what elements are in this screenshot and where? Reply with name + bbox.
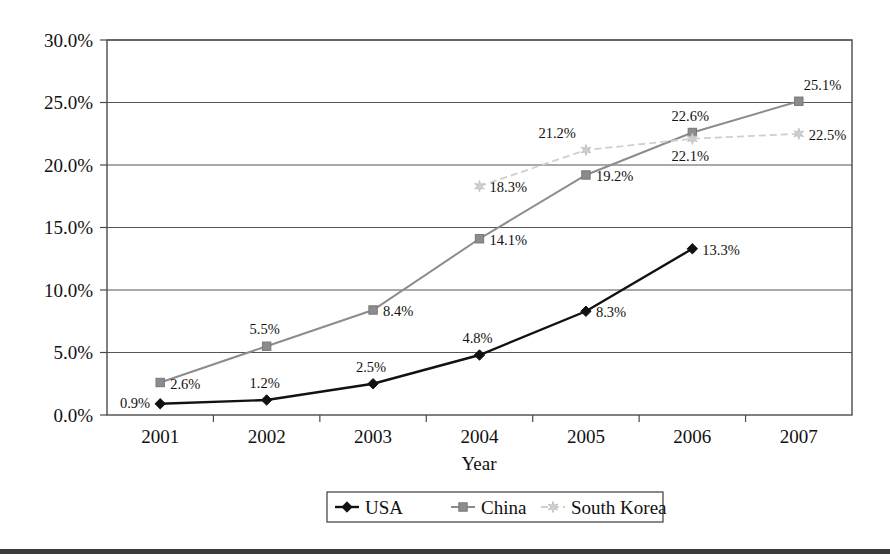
data-label-korea-2007: 22.5% [809,127,846,143]
gridlines-group [107,40,852,353]
y-tick-label: 5.0% [53,342,93,363]
y-tick-label: 10.0% [44,280,93,301]
x-tick-labels-group: 2001200220032004200520062007 [141,426,818,447]
data-point-china-2001 [156,378,164,386]
data-point-china-2004 [475,235,483,243]
legend-marker-china [459,503,467,511]
data-point-china-2007 [795,97,803,105]
data-label-china-2004: 14.1% [490,232,527,248]
x-tick-label-2001: 2001 [141,426,179,447]
data-point-korea-2004 [475,181,485,192]
legend-label-usa: USA [365,497,403,518]
y-tick-labels-group: 0.0%5.0%10.0%15.0%20.0%25.0%30.0% [44,30,93,426]
data-label-china-2005: 19.2% [596,168,633,184]
data-labels-group: 0.9%1.2%2.5%4.8%8.3%13.3%2.6%5.5%8.4%14.… [120,77,846,411]
series-line-korea [480,134,799,187]
x-tick-label-2003: 2003 [354,426,392,447]
data-label-usa-2003: 2.5% [356,359,386,375]
data-point-usa-2001 [155,399,165,409]
data-point-china-2002 [262,342,270,350]
footer-rule [0,549,890,554]
data-point-china-2005 [582,171,590,179]
data-label-usa-2005: 8.3% [596,304,626,320]
data-label-china-2007: 25.1% [804,77,841,93]
x-tick-label-2005: 2005 [567,426,605,447]
data-point-usa-2002 [261,395,271,405]
data-label-korea-2006: 22.1% [672,148,709,164]
chart-legend: USAChinaSouth Korea [327,492,667,522]
series-line-usa [160,249,692,404]
data-label-china-2003: 8.4% [383,303,413,319]
data-label-korea-2004: 18.3% [490,179,527,195]
y-tick-label: 15.0% [44,217,93,238]
data-point-usa-2003 [368,379,378,389]
data-point-usa-2006 [687,244,697,254]
y-tick-label: 30.0% [44,30,93,51]
data-point-usa-2005 [581,306,591,316]
y-tick-label: 25.0% [44,92,93,113]
line-chart: 0.0%5.0%10.0%15.0%20.0%25.0%30.0% 200120… [0,0,890,559]
y-tick-label: 0.0% [53,405,93,426]
y-tick-label: 20.0% [44,155,93,176]
data-label-korea-2005: 21.2% [538,125,575,141]
x-axis-title: Year [461,453,497,474]
x-tick-label-2007: 2007 [780,426,818,447]
legend-label-china: China [481,497,527,518]
data-label-usa-2006: 13.3% [702,242,739,258]
x-tick-label-2002: 2002 [248,426,286,447]
chart-figure: 0.0%5.0%10.0%15.0%20.0%25.0%30.0% 200120… [0,0,890,559]
data-label-china-2006: 22.6% [672,108,709,124]
data-label-china-2001: 2.6% [170,376,200,392]
data-point-china-2003 [369,306,377,314]
data-label-usa-2004: 4.8% [462,330,492,346]
x-tick-label-2006: 2006 [673,426,711,447]
data-label-usa-2002: 1.2% [250,375,280,391]
data-label-china-2002: 5.5% [250,321,280,337]
x-tick-label-2004: 2004 [461,426,500,447]
data-label-usa-2001: 0.9% [120,395,150,411]
legend-label-korea: South Korea [571,497,667,518]
data-point-usa-2004 [474,350,484,360]
